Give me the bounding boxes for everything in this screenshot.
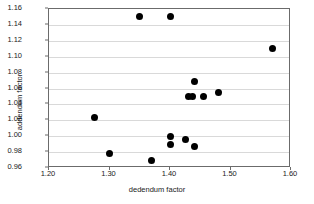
data-point xyxy=(269,45,276,52)
data-point xyxy=(136,13,143,20)
x-tick-mark xyxy=(290,167,291,170)
gridline-horizontal xyxy=(49,41,289,42)
x-tick-label: 1.40 xyxy=(149,170,189,178)
y-tick-mark xyxy=(45,135,48,136)
y-tick-label: 1.06 xyxy=(0,84,22,92)
gridline-horizontal xyxy=(49,120,289,121)
y-tick-mark xyxy=(45,39,48,40)
y-tick-label: 1.04 xyxy=(0,100,22,108)
data-point xyxy=(167,133,174,140)
x-tick-mark xyxy=(109,167,110,170)
y-tick-label: 1.08 xyxy=(0,68,22,76)
x-tick-mark xyxy=(48,167,49,170)
y-tick-mark xyxy=(45,103,48,104)
x-tick-label: 1.30 xyxy=(89,170,129,178)
data-point xyxy=(191,78,198,85)
data-point xyxy=(167,141,174,148)
y-tick-mark xyxy=(45,119,48,120)
gridline-horizontal xyxy=(49,89,289,90)
data-point xyxy=(91,114,98,121)
data-point xyxy=(191,143,198,150)
data-point xyxy=(106,150,113,157)
y-tick-label: 1.10 xyxy=(0,52,22,60)
x-tick-mark xyxy=(169,167,170,170)
data-point xyxy=(200,93,207,100)
x-tick-label: 1.20 xyxy=(28,170,68,178)
gridline-horizontal xyxy=(49,57,289,58)
y-tick-label: 0.96 xyxy=(0,163,22,171)
y-tick-mark xyxy=(45,87,48,88)
data-point xyxy=(189,93,196,100)
scatter-chart: addendum factor dedendum factor 0.960.98… xyxy=(0,0,314,204)
y-tick-mark xyxy=(45,55,48,56)
data-point xyxy=(167,13,174,20)
x-axis-title: dedendum factor xyxy=(0,185,314,194)
x-tick-label: 1.60 xyxy=(270,170,310,178)
gridline-horizontal xyxy=(49,73,289,74)
y-tick-mark xyxy=(45,151,48,152)
y-tick-label: 1.16 xyxy=(0,4,22,12)
y-tick-label: 1.02 xyxy=(0,116,22,124)
y-tick-mark xyxy=(45,71,48,72)
y-tick-label: 0.98 xyxy=(0,147,22,155)
gridline-horizontal xyxy=(49,104,289,105)
data-point xyxy=(215,89,222,96)
y-tick-label: 1.14 xyxy=(0,20,22,28)
gridline-horizontal xyxy=(49,152,289,153)
gridline-horizontal xyxy=(49,25,289,26)
x-tick-label: 1.50 xyxy=(210,170,250,178)
plot-area xyxy=(48,8,290,167)
data-point xyxy=(148,157,155,164)
x-tick-mark xyxy=(230,167,231,170)
y-tick-mark xyxy=(45,23,48,24)
y-tick-label: 1.12 xyxy=(0,36,22,44)
data-point xyxy=(182,136,189,143)
y-tick-label: 1.00 xyxy=(0,131,22,139)
y-tick-mark xyxy=(45,8,48,9)
